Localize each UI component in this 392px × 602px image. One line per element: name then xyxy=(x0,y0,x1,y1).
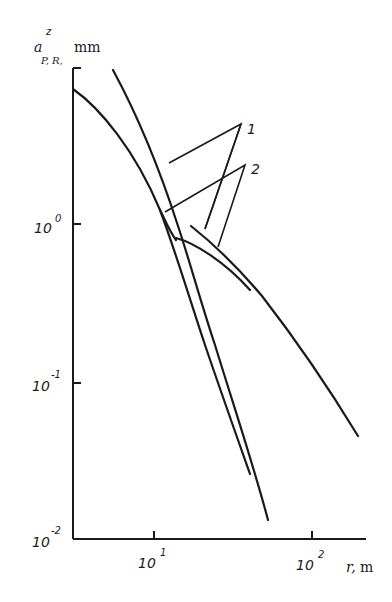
curve-2-main xyxy=(73,89,176,240)
axes xyxy=(73,68,366,539)
svg-text:-2: -2 xyxy=(51,525,61,536)
svg-text:10: 10 xyxy=(32,378,50,394)
y-tick-label-10e0: 10 0 xyxy=(34,213,61,236)
svg-text:10: 10 xyxy=(34,220,52,236)
curve-2-steep xyxy=(160,210,250,474)
x-tick-label-10e1: 10 1 xyxy=(138,547,166,571)
svg-text:m: m xyxy=(360,559,373,575)
svg-text:1: 1 xyxy=(160,547,166,558)
svg-text:-1: -1 xyxy=(51,369,61,380)
leader-lines-2 xyxy=(165,165,245,247)
svg-text:10: 10 xyxy=(138,555,156,571)
leader-lines-1 xyxy=(169,124,241,229)
curve-1-main xyxy=(113,70,268,520)
svg-text:mm: mm xyxy=(74,39,101,55)
curve-1-branch xyxy=(191,226,358,436)
y-tick-label-10e-2: 10 -2 xyxy=(32,525,61,550)
svg-text:2: 2 xyxy=(318,549,324,560)
svg-text:r,: r, xyxy=(346,559,356,575)
leader-2-a xyxy=(165,165,245,247)
svg-text:10: 10 xyxy=(32,534,50,550)
svg-text:z: z xyxy=(45,26,52,37)
svg-text:P, R,: P, R, xyxy=(40,55,63,66)
legend-label-2: 2 xyxy=(251,161,260,177)
leader-1-a xyxy=(169,124,241,229)
chart: 10 0 10 -1 10 -2 10 1 10 2 a z P, R, mm … xyxy=(0,0,392,602)
x-tick-label-10e2: 10 2 xyxy=(296,549,324,573)
svg-text:a: a xyxy=(34,39,42,55)
y-axis-title: a z P, R, mm xyxy=(34,26,101,66)
svg-text:10: 10 xyxy=(296,557,314,573)
legend-label-1: 1 xyxy=(247,121,256,137)
y-tick-label-10e-1: 10 -1 xyxy=(32,369,61,394)
x-axis-title: r, m xyxy=(346,559,373,575)
svg-text:0: 0 xyxy=(55,213,61,224)
